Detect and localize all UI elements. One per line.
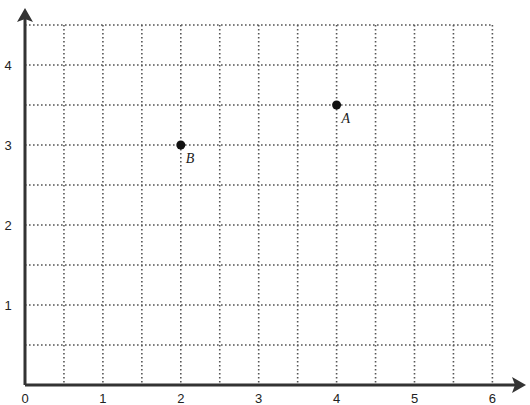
y-tick-label: 1	[4, 298, 11, 313]
x-tick-label: 4	[333, 391, 340, 405]
coordinate-plane: 0123456 1234 AB	[0, 0, 530, 405]
x-tick-label: 6	[489, 391, 496, 405]
point-a	[332, 101, 341, 110]
point-label-a: A	[341, 111, 351, 126]
y-tick-label: 2	[4, 218, 11, 233]
x-tick-label: 2	[177, 391, 184, 405]
point-label-b: B	[186, 151, 195, 166]
point-b	[176, 141, 185, 150]
y-tick-label: 3	[4, 138, 11, 153]
y-tick-label: 4	[4, 58, 11, 73]
y-tick-labels: 1234	[4, 58, 11, 313]
x-tick-label: 5	[411, 391, 418, 405]
x-tick-labels: 0123456	[21, 391, 496, 405]
grid-lines	[25, 25, 492, 385]
x-tick-label: 3	[255, 391, 262, 405]
x-tick-label: 0	[21, 391, 28, 405]
x-tick-label: 1	[99, 391, 106, 405]
points: AB	[176, 101, 350, 167]
